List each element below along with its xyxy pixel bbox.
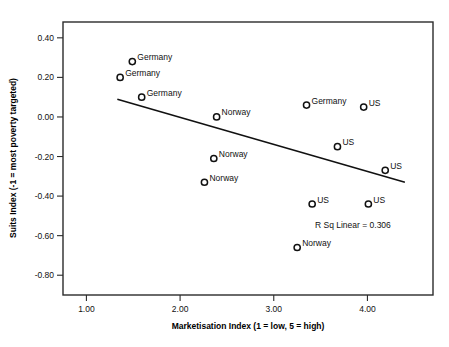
plot-frame — [63, 22, 433, 295]
y-tick-label: -0.60 — [35, 231, 55, 241]
x-axis-title: Marketisation Index (1 = low, 5 = high) — [172, 321, 325, 331]
data-point: US — [334, 137, 354, 150]
data-point-label: US — [342, 137, 354, 147]
data-point: US — [365, 195, 385, 208]
x-tick-label: 1.00 — [78, 304, 95, 314]
data-point-label: Norway — [219, 149, 249, 159]
x-tick-label: 4.00 — [359, 304, 376, 314]
y-tick-label: -0.80 — [35, 270, 55, 280]
data-point-marker — [211, 155, 217, 161]
data-point: Germany — [303, 96, 347, 109]
data-point: Germany — [117, 68, 161, 81]
data-point-marker — [139, 94, 145, 100]
data-point-marker — [361, 104, 367, 110]
data-point-marker — [303, 102, 309, 108]
x-axis-ticks: 1.002.003.004.00 — [78, 295, 376, 314]
y-tick-label: 0.20 — [37, 72, 54, 82]
y-axis-ticks: 0.400.200.00-0.20-0.40-0.60-0.80 — [35, 33, 63, 280]
data-point: US — [309, 195, 329, 208]
data-point-marker — [365, 201, 371, 207]
data-point-marker — [309, 201, 315, 207]
r-squared-annotation: R Sq Linear = 0.306 — [315, 220, 391, 230]
data-point-label: Norway — [222, 107, 252, 117]
data-point: Germany — [129, 52, 173, 65]
chart-annotations: R Sq Linear = 0.306 — [315, 220, 391, 230]
chart-canvas: 0.400.200.00-0.20-0.40-0.60-0.80 1.002.0… — [0, 0, 449, 347]
data-point: US — [361, 98, 381, 111]
x-tick-label: 3.00 — [265, 304, 282, 314]
data-point: Norway — [201, 173, 239, 186]
data-point-label: Germany — [147, 88, 183, 98]
data-point-label: US — [390, 161, 402, 171]
scatter-plot-figure: 0.400.200.00-0.20-0.40-0.60-0.80 1.002.0… — [0, 0, 449, 347]
data-point-marker — [117, 74, 123, 80]
data-point-label: US — [317, 195, 329, 205]
data-point-label: Germany — [312, 96, 348, 106]
y-axis-title: Suits Index (-1 = most poverty targeted) — [8, 78, 18, 238]
data-point-marker — [214, 114, 220, 120]
data-point-marker — [382, 167, 388, 173]
data-point-label: US — [373, 195, 385, 205]
data-point: US — [382, 161, 402, 174]
data-point-label: Norway — [302, 238, 332, 248]
data-point-label: Norway — [209, 173, 239, 183]
y-tick-label: 0.00 — [37, 112, 54, 122]
data-point-label: Germany — [137, 52, 173, 62]
x-tick-label: 2.00 — [172, 304, 189, 314]
data-point-label: Germany — [125, 68, 161, 78]
data-point-marker — [334, 144, 340, 150]
data-point-marker — [294, 244, 300, 250]
y-tick-label: -0.40 — [35, 191, 55, 201]
y-tick-label: -0.20 — [35, 152, 55, 162]
regression-line — [117, 99, 405, 182]
data-point-marker — [201, 179, 207, 185]
data-point-marker — [129, 58, 135, 64]
y-tick-label: 0.40 — [37, 33, 54, 43]
data-point: Norway — [294, 238, 332, 251]
data-point: Norway — [211, 149, 249, 162]
data-point-label: US — [369, 98, 381, 108]
data-point: Norway — [214, 107, 252, 120]
regression-fit-line — [117, 99, 405, 182]
data-point: Germany — [139, 88, 183, 101]
